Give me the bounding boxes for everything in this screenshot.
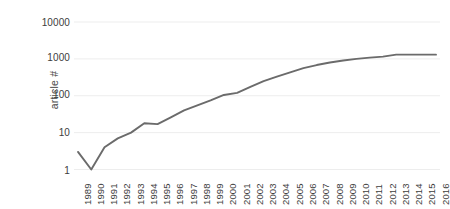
x-tick-2015: 2015	[426, 183, 437, 205]
x-tick-1994: 1994	[148, 183, 159, 205]
x-tick-1997: 1997	[188, 183, 199, 205]
x-tick-1995: 1995	[161, 183, 172, 205]
x-tick-2010: 2010	[360, 183, 371, 205]
x-tick-1992: 1992	[121, 183, 132, 205]
x-tick-1991: 1991	[108, 183, 119, 205]
x-tick-2009: 2009	[347, 183, 358, 205]
x-tick-2014: 2014	[413, 183, 424, 205]
x-tick-2004: 2004	[280, 183, 291, 205]
x-tick-2005: 2005	[294, 183, 305, 205]
x-tick-2007: 2007	[320, 183, 331, 205]
x-tick-2002: 2002	[254, 183, 265, 205]
x-tick-1990: 1990	[95, 183, 106, 205]
x-tick-1996: 1996	[174, 183, 185, 205]
x-tick-2016: 2016	[440, 183, 450, 205]
x-tick-2000: 2000	[227, 183, 238, 205]
plot-area	[0, 0, 450, 209]
x-tick-2013: 2013	[400, 183, 411, 205]
x-tick-2006: 2006	[307, 183, 318, 205]
chart-container: article # 10000 1000 100 10 1 1989199019…	[0, 0, 450, 209]
x-tick-2003: 2003	[267, 183, 278, 205]
x-tick-2001: 2001	[241, 183, 252, 205]
x-tick-2011: 2011	[373, 184, 384, 205]
x-tick-1989: 1989	[82, 183, 93, 205]
x-tick-1999: 1999	[214, 183, 225, 205]
x-tick-2008: 2008	[334, 183, 345, 205]
x-tick-2012: 2012	[387, 183, 398, 205]
x-tick-1993: 1993	[135, 183, 146, 205]
data-series-line	[78, 55, 436, 170]
x-tick-1998: 1998	[201, 183, 212, 205]
